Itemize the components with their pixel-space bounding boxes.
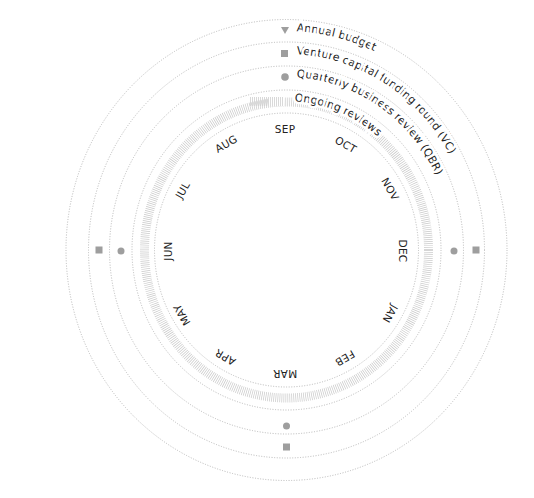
vc-marker-jun xyxy=(96,247,103,254)
month-sep: SEP xyxy=(275,123,296,135)
month-apr: APR xyxy=(213,347,238,368)
month-mar: MAR xyxy=(273,368,297,380)
month-jul: JUL xyxy=(172,179,192,201)
circle-icon xyxy=(281,73,289,81)
triangle-down-icon xyxy=(281,27,289,34)
ring-inner xyxy=(155,113,419,387)
month-may: MAY xyxy=(171,302,193,328)
month-dec: DEC xyxy=(397,240,409,263)
month-aug: AUG xyxy=(213,132,240,154)
legend: Annual budget Venture capital funding ro… xyxy=(250,21,459,177)
business-cycle-diagram: Annual budget Venture capital funding ro… xyxy=(0,0,534,498)
qbr-marker-mar xyxy=(283,423,290,430)
month-jun: JUN xyxy=(162,241,174,262)
month-labels: SEP OCT NOV DEC JAN FEB MAR APR MAY JUN … xyxy=(162,123,409,380)
month-oct: OCT xyxy=(333,134,359,156)
vc-marker-dec xyxy=(473,247,480,254)
month-nov: NOV xyxy=(379,176,402,203)
ring-ongoing-reviews xyxy=(145,102,429,398)
qbr-marker-jun xyxy=(118,248,125,255)
month-feb: FEB xyxy=(333,348,357,369)
month-jan: JAN xyxy=(381,302,401,325)
vc-marker-mar xyxy=(283,444,290,451)
square-icon xyxy=(281,50,288,57)
ring-qbr xyxy=(132,90,441,410)
qbr-marker-dec xyxy=(451,248,458,255)
